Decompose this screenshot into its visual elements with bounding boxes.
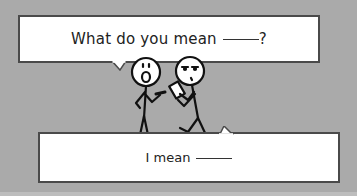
comic-panel: What do you mean ? xyxy=(0,0,357,196)
blank-line xyxy=(223,38,259,40)
question-mark: ? xyxy=(259,30,267,48)
stick-figures xyxy=(110,50,230,140)
question-text: What do you mean xyxy=(71,30,217,48)
blank-line xyxy=(196,157,232,159)
speech-tail-bottom xyxy=(218,126,234,135)
speech-bubble-answer: I mean xyxy=(38,132,340,183)
bottom-edge xyxy=(0,192,357,196)
answer-text: I mean xyxy=(146,150,191,165)
